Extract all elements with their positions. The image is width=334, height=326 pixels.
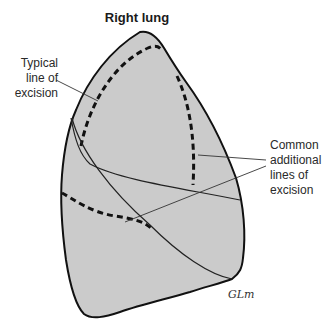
illustrator-signature: GLm [228,288,255,301]
lung-diagram [0,0,334,326]
